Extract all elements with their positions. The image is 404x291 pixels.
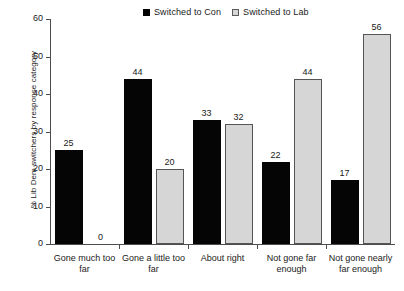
y-tick-50 <box>46 57 50 58</box>
bar-value-label-lab-5: 56 <box>357 22 397 32</box>
bar-con-2 <box>124 79 152 244</box>
y-tick-10 <box>46 207 50 208</box>
y-tick-label-40: 40 <box>23 89 43 98</box>
x-category-label-1: Gone much too far <box>51 253 118 275</box>
x-category-label-4: Not gone far enough <box>258 253 325 275</box>
bar-lab-5 <box>363 34 391 244</box>
y-tick-label-30: 30 <box>23 127 43 136</box>
bar-lab-4 <box>294 79 322 244</box>
y-tick-label-50: 50 <box>23 52 43 61</box>
x-tick-separator-3 <box>257 244 258 249</box>
y-tick-30 <box>46 132 50 133</box>
x-category-label-3: About right <box>189 253 256 264</box>
legend-item-switched-to-con: Switched to Con <box>143 7 221 18</box>
bar-value-label-lab-1: 0 <box>81 232 121 242</box>
legend-label-con: Switched to Con <box>154 7 221 18</box>
x-category-label-5: Not gone nearly far enough <box>327 253 394 275</box>
bar-lab-3 <box>225 124 253 244</box>
bar-value-label-lab-2: 20 <box>150 157 190 167</box>
y-tick-label-0: 0 <box>23 239 43 248</box>
y-tick-40 <box>46 94 50 95</box>
y-tick-0 <box>46 244 50 245</box>
bar-value-label-lab-4: 44 <box>288 67 328 77</box>
bar-con-4 <box>262 162 290 245</box>
legend-swatch-lab-icon <box>232 9 239 16</box>
y-tick-label-10: 10 <box>23 202 43 211</box>
bar-value-label-con-2: 44 <box>118 67 158 77</box>
y-tick-label-20: 20 <box>23 164 43 173</box>
chart-legend: Switched to Con Switched to Lab <box>143 7 309 18</box>
y-axis-line <box>50 19 51 244</box>
bar-value-label-con-1: 25 <box>49 138 89 148</box>
y-tick-20 <box>46 169 50 170</box>
bar-chart: Switched to Con Switched to Lab % Lib De… <box>0 0 404 291</box>
bar-con-3 <box>193 120 221 244</box>
legend-label-lab: Switched to Lab <box>243 7 309 18</box>
x-category-label-2: Gone a little too far <box>120 253 187 275</box>
bar-value-label-con-5: 17 <box>325 168 365 178</box>
bar-con-1 <box>55 150 83 244</box>
bar-value-label-lab-3: 32 <box>219 112 259 122</box>
bar-value-label-con-4: 22 <box>256 150 296 160</box>
x-tick-separator-4 <box>326 244 327 249</box>
x-tick-separator-2 <box>188 244 189 249</box>
plot-area: 0102030405060 2504420333222441756 <box>50 19 395 244</box>
legend-swatch-con-icon <box>143 9 150 16</box>
y-tick-60 <box>46 19 50 20</box>
x-tick-separator-1 <box>119 244 120 249</box>
legend-item-switched-to-lab: Switched to Lab <box>232 7 309 18</box>
y-tick-label-60: 60 <box>23 14 43 23</box>
bar-con-5 <box>331 180 359 244</box>
bar-lab-2 <box>156 169 184 244</box>
x-axis-line <box>50 244 395 245</box>
